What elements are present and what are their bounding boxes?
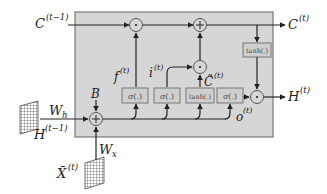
svg-text:(t): (t) bbox=[68, 162, 78, 172]
svg-text:H: H bbox=[287, 89, 300, 104]
forget-gate: σ(.) bbox=[122, 88, 148, 103]
output-multiply-node bbox=[251, 91, 264, 104]
cell-tanh-label: tanh(.) bbox=[246, 47, 268, 55]
svg-text:C̃: C̃ bbox=[204, 74, 213, 89]
svg-text:σ(.): σ(.) bbox=[160, 92, 174, 101]
svg-text:h: h bbox=[62, 110, 67, 120]
output-gate: σ(.) bbox=[217, 88, 243, 103]
candidate-gate: tanh(.) bbox=[186, 88, 214, 103]
bias-label: B bbox=[90, 87, 100, 101]
svg-text:(t): (t) bbox=[214, 71, 223, 80]
h-out-label: H (t) bbox=[287, 85, 310, 104]
cell-add-node bbox=[194, 19, 207, 32]
svg-text:(t): (t) bbox=[120, 66, 129, 75]
svg-text:i: i bbox=[149, 66, 153, 80]
svg-text:(t): (t) bbox=[300, 85, 310, 95]
svg-text:(t): (t) bbox=[299, 13, 309, 23]
svg-text:B: B bbox=[90, 87, 100, 101]
svg-text:σ(.): σ(.) bbox=[223, 92, 237, 101]
input-add-node bbox=[90, 113, 103, 126]
c-out-label: C (t) bbox=[288, 13, 309, 32]
input-gate: σ(.) bbox=[154, 88, 180, 103]
svg-text:(t): (t) bbox=[243, 106, 252, 115]
lstm-diagram: tanh(.) σ(.) σ(.) tanh(.) σ(.) bbox=[0, 0, 327, 194]
svg-text:(t−1): (t−1) bbox=[45, 123, 68, 133]
input-multiply-node bbox=[194, 61, 207, 74]
x-in-label: X̄ (t) bbox=[56, 162, 78, 181]
wh-label: W h bbox=[49, 103, 67, 120]
svg-text:x: x bbox=[112, 149, 117, 159]
wx-label: W x bbox=[99, 142, 117, 159]
svg-text:X̄: X̄ bbox=[56, 166, 67, 181]
svg-text:(t−1): (t−1) bbox=[46, 12, 69, 22]
svg-text:tanh(.): tanh(.) bbox=[189, 93, 211, 101]
wx-matrix-icon bbox=[85, 157, 104, 189]
svg-text:C: C bbox=[288, 17, 298, 32]
c-prev-label: C (t−1) bbox=[35, 12, 69, 31]
svg-text:C: C bbox=[35, 16, 45, 31]
svg-text:(t): (t) bbox=[154, 63, 163, 72]
forget-multiply-node bbox=[130, 19, 143, 32]
svg-text:σ(.): σ(.) bbox=[128, 92, 142, 101]
cell-body bbox=[75, 12, 273, 137]
